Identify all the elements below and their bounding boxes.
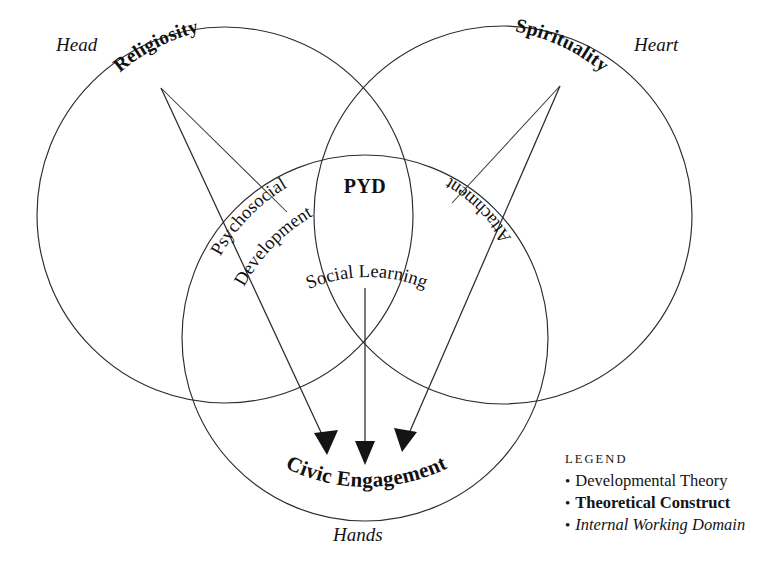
label-attachment: Attachment — [441, 174, 515, 248]
label-pyd: PYD — [344, 175, 386, 197]
bullet-icon: • — [565, 474, 570, 489]
label-spirituality: Spirituality — [514, 15, 613, 76]
bullet-icon: • — [565, 518, 570, 533]
legend-item-developmental-theory: • Developmental Theory — [565, 471, 761, 491]
venn-diagram-figure: Religiosity Spirituality Psychosocial De… — [0, 0, 767, 579]
bullet-icon: • — [565, 496, 570, 511]
legend-item-label: Developmental Theory — [575, 471, 727, 491]
label-social-learning: Social Learning — [303, 261, 431, 293]
legend-item-label: Theoretical Construct — [575, 493, 730, 513]
legend-item-theoretical-construct: • Theoretical Construct — [565, 493, 761, 513]
label-religiosity: Religiosity — [109, 16, 200, 76]
domain-label-heart: Heart — [634, 34, 678, 56]
domain-label-hands: Hands — [333, 524, 383, 546]
legend-item-internal-working-domain: • Internal Working Domain — [565, 515, 761, 535]
legend-title: LEGEND — [565, 452, 761, 467]
domain-label-head: Head — [56, 34, 97, 56]
circle-heart — [314, 26, 692, 404]
legend-item-label: Internal Working Domain — [575, 515, 745, 535]
circle-head — [37, 27, 413, 403]
arrow-social-learning-to-civic — [355, 288, 375, 465]
legend: LEGEND • Developmental Theory • Theoreti… — [565, 452, 761, 535]
